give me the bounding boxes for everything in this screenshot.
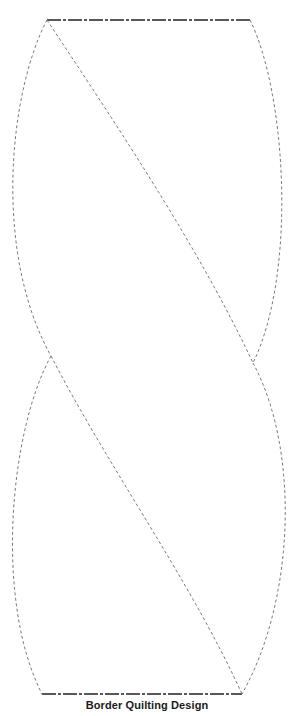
upper-right-arc — [250, 20, 282, 363]
lower-right-arc — [242, 363, 285, 694]
diagram-caption: Border Quilting Design — [0, 699, 294, 711]
quilting-diagram — [0, 0, 294, 716]
upper-diagonal — [47, 20, 253, 363]
lower-left-arc — [12, 356, 51, 694]
upper-left-arc — [13, 20, 51, 356]
lower-diagonal — [51, 356, 242, 694]
